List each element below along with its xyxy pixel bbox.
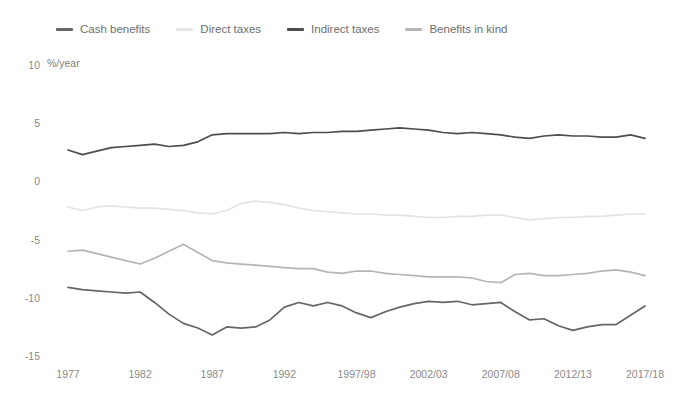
line-chart: Cash benefits Direct taxes Indirect taxe…: [0, 0, 679, 406]
series-line-benefits-in-kind: [68, 244, 645, 282]
plot-svg: [0, 0, 679, 406]
series-line-cash-benefits: [68, 287, 645, 335]
series-line-indirect-taxes: [68, 128, 645, 155]
plot-area: [0, 0, 679, 406]
series-line-direct-taxes: [68, 201, 645, 220]
